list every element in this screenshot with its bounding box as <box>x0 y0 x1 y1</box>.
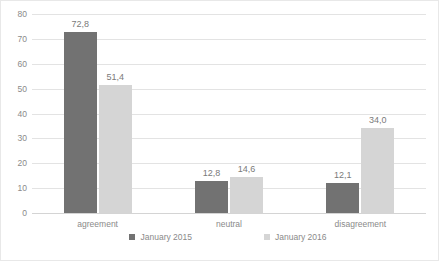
bar-value-label: 14,6 <box>238 165 256 174</box>
bar-group: 12,134,0disagreement <box>295 14 426 213</box>
legend-label: January 2015 <box>140 233 192 242</box>
legend: January 2015January 2016 <box>32 233 424 242</box>
y-axis-tick-label: 60 <box>1 60 27 69</box>
x-axis-category-label: disagreement <box>335 220 387 229</box>
legend-label: January 2016 <box>275 233 327 242</box>
legend-swatch-icon <box>129 234 135 240</box>
bar-value-label: 72,8 <box>71 20 89 29</box>
y-axis-tick-label: 80 <box>1 10 27 19</box>
bar-group: 12,814,6neutral <box>163 14 294 213</box>
y-axis-tick-label: 40 <box>1 109 27 118</box>
bar-value-label: 51,4 <box>106 73 124 82</box>
plot-area: 01020304050607080 72,851,4agreement12,81… <box>32 14 426 213</box>
bar[interactable]: 12,1 <box>326 183 359 213</box>
bar-chart-figure: 01020304050607080 72,851,4agreement12,81… <box>0 0 439 261</box>
y-axis-tick-label: 10 <box>1 184 27 193</box>
bar-value-label: 12,1 <box>334 171 352 180</box>
y-axis-tick-label: 30 <box>1 134 27 143</box>
x-axis-category-label: agreement <box>77 220 118 229</box>
y-axis-tick-label: 70 <box>1 35 27 44</box>
y-axis-tick-label: 0 <box>1 209 27 218</box>
x-axis-category-label: neutral <box>216 220 242 229</box>
bar[interactable]: 51,4 <box>99 85 132 213</box>
bar-group: 72,851,4agreement <box>32 14 163 213</box>
bar[interactable]: 14,6 <box>230 177 263 213</box>
y-axis-tick-label: 50 <box>1 84 27 93</box>
bar-value-label: 34,0 <box>369 116 387 125</box>
bar-value-label: 12,8 <box>203 169 221 178</box>
bar[interactable]: 34,0 <box>361 128 394 213</box>
legend-swatch-icon <box>264 234 270 240</box>
bar[interactable]: 12,8 <box>195 181 228 213</box>
legend-item[interactable]: January 2015 <box>129 233 192 242</box>
legend-item[interactable]: January 2016 <box>264 233 327 242</box>
bar[interactable]: 72,8 <box>64 32 97 213</box>
y-axis-tick-label: 20 <box>1 159 27 168</box>
gridline <box>32 213 426 214</box>
